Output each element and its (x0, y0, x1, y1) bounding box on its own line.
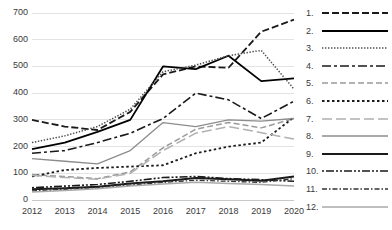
legend-label: 8. (306, 129, 321, 143)
legend-label: 12. (306, 200, 321, 214)
chart-screenshot: 0100200300400500600700 20122013201420152… (0, 0, 392, 230)
legend-line-swatch-2 (321, 26, 392, 36)
legend-item-12[interactable]: 12. (306, 200, 392, 214)
legend: 1.2.3.4.5.6.7.8.9.10.11.12. (306, 6, 392, 224)
legend-label: 3. (306, 41, 321, 55)
legend-item-8[interactable]: 8. (306, 129, 392, 143)
legend-line-swatch-3 (321, 43, 392, 53)
legend-line-swatch-8 (321, 131, 392, 141)
legend-label: 11. (306, 182, 321, 196)
x-tick-label: 2018 (213, 206, 245, 216)
legend-item-2[interactable]: 2. (306, 24, 392, 38)
y-tick-label: 200 (2, 141, 28, 151)
x-tick-label: 2019 (245, 206, 277, 216)
legend-label: 5. (306, 76, 321, 90)
legend-item-6[interactable]: 6. (306, 94, 392, 108)
legend-item-10[interactable]: 10. (306, 164, 392, 178)
x-tick-label: 2016 (147, 206, 179, 216)
legend-line-swatch-7 (321, 114, 392, 124)
x-tick-label: 2017 (180, 206, 212, 216)
x-tick-label: 2015 (114, 206, 146, 216)
legend-item-1[interactable]: 1. (306, 6, 392, 20)
series-line-9 (32, 176, 294, 189)
legend-line-swatch-9 (321, 149, 392, 159)
y-tick-label: 600 (2, 34, 28, 44)
y-tick-label: 500 (2, 60, 28, 70)
legend-line-swatch-4 (321, 61, 392, 71)
legend-item-4[interactable]: 4. (306, 59, 392, 73)
series-line-2 (32, 56, 294, 150)
legend-item-3[interactable]: 3. (306, 41, 392, 55)
legend-line-swatch-11 (321, 184, 392, 194)
y-tick-label: 100 (2, 167, 28, 177)
x-tick-label: 2014 (82, 206, 114, 216)
x-tick-label: 2013 (49, 206, 81, 216)
legend-label: 2. (306, 24, 321, 38)
legend-label: 6. (306, 94, 321, 108)
legend-item-9[interactable]: 9. (306, 147, 392, 161)
legend-line-swatch-5 (321, 78, 392, 88)
series-lines (32, 20, 294, 192)
legend-label: 4. (306, 59, 321, 73)
legend-label: 1. (306, 6, 321, 20)
series-line-1 (32, 20, 294, 130)
x-tick-label: 2012 (16, 206, 48, 216)
legend-line-swatch-10 (321, 166, 392, 176)
y-tick-label: 700 (2, 7, 28, 17)
legend-label: 9. (306, 147, 321, 161)
legend-item-7[interactable]: 7. (306, 112, 392, 126)
gridlines (32, 13, 294, 200)
legend-item-5[interactable]: 5. (306, 76, 392, 90)
y-tick-label: 0 (2, 194, 28, 204)
legend-line-swatch-12 (321, 202, 392, 212)
legend-line-swatch-1 (321, 8, 392, 18)
legend-line-swatch-6 (321, 96, 392, 106)
legend-label: 7. (306, 112, 321, 126)
y-tick-label: 400 (2, 87, 28, 97)
line-chart: 0100200300400500600700 20122013201420152… (0, 0, 300, 230)
plot-canvas (0, 0, 300, 230)
y-tick-label: 300 (2, 114, 28, 124)
legend-item-11[interactable]: 11. (306, 182, 392, 196)
legend-label: 10. (306, 164, 321, 178)
series-line-3 (32, 50, 294, 142)
